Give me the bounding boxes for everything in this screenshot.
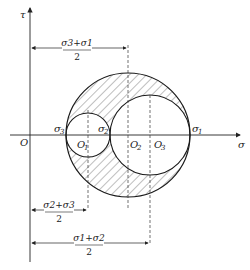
dim-bot-denominator: 2 — [86, 247, 92, 257]
svg-text:1: 1 — [198, 128, 202, 136]
mohr-circle-diagram: σ3+σ1 2 σ2+σ3 2 σ1+σ2 2 τ σ O σ 3 σ 2 σ … — [0, 0, 250, 270]
svg-text:1: 1 — [84, 144, 88, 152]
dim-top-denominator: 2 — [74, 52, 80, 62]
svg-text:2: 2 — [103, 128, 109, 136]
mohr-svg: σ3+σ1 2 σ2+σ3 2 σ1+σ2 2 τ σ O σ 3 σ 2 σ … — [0, 0, 250, 270]
svg-text:3: 3 — [60, 128, 65, 136]
svg-text:2: 2 — [136, 144, 142, 152]
dim-top-numerator: σ3+σ1 — [61, 38, 92, 48]
dim-bot-numerator: σ1+σ2 — [73, 233, 105, 243]
svg-text:3: 3 — [161, 144, 166, 152]
sigma-axis-label: σ — [238, 139, 246, 150]
dim-mid-denominator: 2 — [56, 214, 62, 224]
origin-label: O — [20, 137, 28, 148]
dim-mid-numerator: σ2+σ3 — [43, 200, 75, 210]
tau-axis-label: τ — [20, 9, 26, 20]
